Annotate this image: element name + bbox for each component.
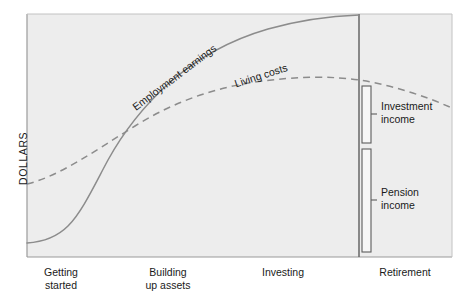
callout-investment-income: Investment income xyxy=(381,100,432,125)
chart-figure: DOLLARS Employment earnings Living costs… xyxy=(0,0,463,305)
plot-area-background xyxy=(27,14,452,257)
x-category-retirement: Retirement xyxy=(355,266,455,279)
x-category-getting-started: Getting started xyxy=(16,266,106,291)
pension-income-bar xyxy=(362,149,371,252)
x-category-investing: Investing xyxy=(233,266,333,279)
y-axis-title: DOLLARS xyxy=(17,132,29,185)
investment-income-bar xyxy=(362,86,371,143)
callout-pension-income: Pension income xyxy=(381,186,419,211)
x-category-building-up-assets: Building up assets xyxy=(118,266,218,291)
chart-canvas xyxy=(0,0,463,305)
